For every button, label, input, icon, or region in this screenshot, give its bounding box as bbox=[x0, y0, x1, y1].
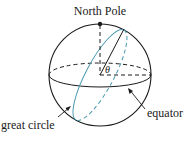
equator-front bbox=[49, 75, 151, 87]
theta-label: θ bbox=[105, 64, 110, 75]
north-pole-dot bbox=[98, 22, 102, 26]
sphere-diagram: North Pole θ great circle equator bbox=[0, 0, 195, 142]
great-circle-front bbox=[64, 23, 124, 120]
great-circle-back bbox=[76, 30, 136, 127]
great-circle-label: great circle bbox=[1, 118, 55, 132]
north-pole-label: North Pole bbox=[74, 4, 126, 18]
great-circle-radius bbox=[100, 29, 124, 75]
equator-label: equator bbox=[147, 106, 183, 120]
